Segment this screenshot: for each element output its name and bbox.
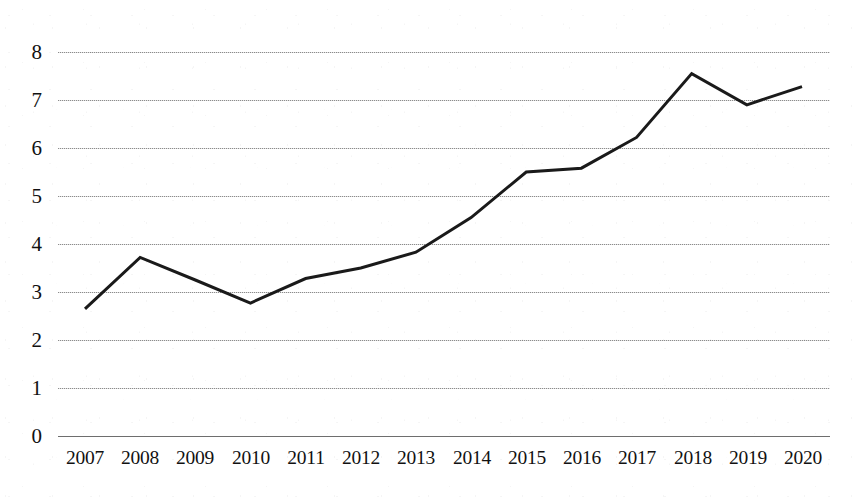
series-layer <box>0 0 854 497</box>
data-series-line <box>85 74 802 309</box>
plot-area: 8 7 6 5 4 3 2 1 0 2007 2008 2009 2010 20… <box>0 0 854 497</box>
line-chart-figure: 8 7 6 5 4 3 2 1 0 2007 2008 2009 2010 20… <box>0 0 854 497</box>
